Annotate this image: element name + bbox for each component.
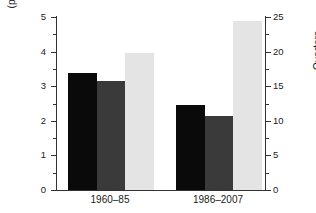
- y-axis-left-minor-tick: [53, 69, 56, 70]
- chart-figure: Number of recessions (percent change fro…: [0, 0, 316, 213]
- y-axis-right-tick: [266, 155, 271, 156]
- y-axis-left-minor-tick: [53, 173, 56, 174]
- y-axis-left-minor-tick: [53, 138, 56, 139]
- y-axis-right-tick: [266, 86, 271, 87]
- y-axis-right-minor-tick: [266, 69, 269, 70]
- y-axis-right-tick: [266, 121, 271, 122]
- y-axis-right-tick: [266, 52, 271, 53]
- y-axis-left-ticklabel: 3: [41, 81, 46, 91]
- y-axis-left-ticklabel: 0: [41, 185, 46, 195]
- y-axis-left-ticklabel: 4: [41, 47, 46, 57]
- y-axis-left-ticklabel: 1: [41, 150, 46, 160]
- x-axis-category-label: 1960–85: [60, 194, 160, 205]
- y-axis-right-minor-tick: [266, 104, 269, 105]
- y-axis-left-tick: [51, 155, 56, 156]
- y-axis-right-ticklabel: 5: [273, 150, 278, 160]
- x-axis-line: [56, 190, 266, 191]
- y-axis-left-minor-tick: [53, 34, 56, 35]
- y-axis-right-ticklabel: 20: [273, 47, 284, 57]
- y-axis-left-tick: [51, 86, 56, 87]
- y-axis-left-ticklabel: 5: [41, 12, 46, 22]
- y-axis-left-tick: [51, 121, 56, 122]
- bar: [176, 105, 205, 190]
- y-axis-left-tick: [51, 52, 56, 53]
- y-axis-left-tick: [51, 17, 56, 18]
- y-axis-right-title: Quarters: [312, 31, 316, 70]
- y-axis-left-tick: [51, 190, 56, 191]
- y-axis-left-minor-tick: [53, 104, 56, 105]
- y-axis-left-ticklabel: 2: [41, 116, 46, 126]
- y-axis-right-minor-tick: [266, 138, 269, 139]
- y-axis-right-minor-tick: [266, 34, 269, 35]
- bar: [97, 81, 126, 190]
- y-axis-right-ticklabel: 15: [273, 81, 284, 91]
- plot-area: [57, 17, 265, 190]
- y-axis-right-tick: [266, 17, 271, 18]
- y-axis-left-title-line2: (percent change from peak): [6, 0, 18, 22]
- y-axis-right-ticklabel: 0: [273, 185, 278, 195]
- y-axis-left-title: Number of recessions (percent change fro…: [0, 0, 18, 22]
- y-axis-right-tick: [266, 190, 271, 191]
- bar: [233, 21, 262, 190]
- y-axis-right-minor-tick: [266, 173, 269, 174]
- bar: [68, 73, 97, 190]
- x-axis-category-label: 1986–2007: [168, 194, 268, 205]
- y-axis-right-ticklabel: 25: [273, 12, 284, 22]
- bar: [205, 116, 234, 190]
- y-axis-right-ticklabel: 10: [273, 116, 284, 126]
- bar: [125, 53, 154, 190]
